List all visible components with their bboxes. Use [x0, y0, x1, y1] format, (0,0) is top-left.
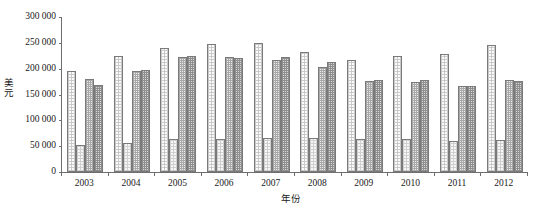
y-axis-tick-label: 300 000	[4, 12, 56, 22]
bar	[440, 54, 449, 172]
y-axis-tick-label: 150 000	[4, 90, 56, 100]
bar	[207, 44, 216, 172]
bar	[487, 45, 496, 172]
y-axis-tick-mark	[59, 146, 62, 147]
bar-group	[342, 17, 389, 172]
x-axis-tick-label: 2009	[341, 178, 388, 189]
x-axis-tick-mark	[108, 173, 109, 176]
bar	[402, 139, 411, 172]
bar-group	[202, 17, 249, 172]
y-axis-tick-label: 50 000	[4, 141, 56, 151]
x-axis-tick-label: 2008	[294, 178, 341, 189]
x-axis-tick-label: 2007	[247, 178, 294, 189]
bar-chart: 美元 050 000100 000150 000200 000250 00030…	[0, 0, 535, 215]
bar-group-inner	[160, 17, 196, 172]
bar-group	[62, 17, 109, 172]
x-axis-tick-mark	[527, 173, 528, 176]
bar-group-inner	[440, 17, 476, 172]
bar	[281, 57, 290, 172]
bar	[141, 70, 150, 172]
bar	[272, 60, 281, 172]
bar	[327, 62, 336, 172]
bar-group-inner	[114, 17, 150, 172]
bar	[160, 48, 169, 172]
bar-group	[109, 17, 156, 172]
x-axis-tick-label: 2012	[480, 178, 527, 189]
y-axis-tick-label: 250 000	[4, 38, 56, 48]
x-axis-tick-mark	[387, 173, 388, 176]
bar	[187, 56, 196, 172]
y-axis-tick-label: 100 000	[4, 115, 56, 125]
bar	[374, 80, 383, 172]
x-axis-tick-mark	[294, 173, 295, 176]
x-axis-tick-mark	[247, 173, 248, 176]
bar-group-inner	[300, 17, 336, 172]
x-axis-tick-mark	[434, 173, 435, 176]
bar	[420, 80, 429, 172]
bar	[496, 140, 505, 172]
bar	[234, 58, 243, 172]
bar-group-inner	[347, 17, 383, 172]
bar-groups	[62, 17, 528, 172]
y-axis-tick-mark	[59, 95, 62, 96]
x-axis-tick-label: 2004	[108, 178, 155, 189]
bar	[411, 82, 420, 172]
y-axis-tick-mark	[59, 43, 62, 44]
bar	[300, 52, 309, 172]
bar-group-inner	[254, 17, 290, 172]
y-axis-tick-mark	[59, 120, 62, 121]
bar	[458, 86, 467, 172]
bar-group-inner	[393, 17, 429, 172]
bar-group-inner	[487, 17, 523, 172]
bar-group	[248, 17, 295, 172]
bar	[169, 139, 178, 172]
bar	[132, 71, 141, 172]
x-axis-tick-mark	[61, 173, 62, 176]
bar	[123, 143, 132, 172]
y-axis-tick-mark	[59, 17, 62, 18]
bar	[114, 56, 123, 172]
bar	[365, 81, 374, 172]
x-axis-title: 年份	[0, 194, 535, 205]
x-axis-tick-label: 2006	[201, 178, 248, 189]
x-axis-tick-mark	[154, 173, 155, 176]
bar	[216, 139, 225, 172]
x-axis-tick-mark	[201, 173, 202, 176]
bar-group-inner	[67, 17, 103, 172]
bar-group	[295, 17, 342, 172]
bar	[67, 71, 76, 172]
x-axis-tick-label: 2010	[387, 178, 434, 189]
x-axis-tick-label: 2005	[154, 178, 201, 189]
x-axis-title-text: 年份	[235, 194, 301, 204]
bar	[76, 145, 85, 172]
bar	[505, 80, 514, 172]
bar	[318, 67, 327, 172]
x-axis-tick-label: 2011	[434, 178, 481, 189]
y-axis-tick-label: 200 000	[4, 64, 56, 74]
bar	[85, 79, 94, 172]
x-axis-tick-labels: 2003200420052006200720082009201020112012	[61, 178, 527, 189]
plot-area	[61, 17, 528, 173]
bar	[467, 86, 476, 172]
bar	[254, 43, 263, 172]
bar-group-inner	[207, 17, 243, 172]
bar	[178, 57, 187, 172]
y-axis-tick-labels: 050 000100 000150 000200 000250 000300 0…	[0, 0, 56, 215]
y-axis-tick-mark	[59, 69, 62, 70]
bar	[449, 141, 458, 172]
bar	[356, 139, 365, 172]
bar	[94, 85, 103, 172]
bar	[309, 138, 318, 172]
bar	[225, 57, 234, 172]
bar	[393, 56, 402, 172]
bar-group	[435, 17, 482, 172]
bar-group	[155, 17, 202, 172]
bar-group	[388, 17, 435, 172]
bar	[263, 138, 272, 172]
x-axis-tick-mark	[341, 173, 342, 176]
x-axis-tick-mark	[480, 173, 481, 176]
y-axis-tick-label: 0	[4, 167, 56, 177]
x-axis-tick-label: 2003	[61, 178, 108, 189]
bar	[347, 60, 356, 172]
bar-group	[481, 17, 528, 172]
